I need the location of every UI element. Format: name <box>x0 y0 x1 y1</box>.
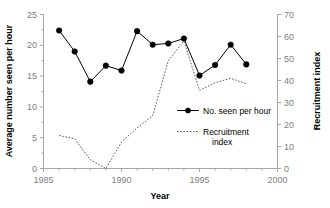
y-left-tick-10: 10 <box>27 102 37 112</box>
recruitment-vs-sightings-chart: 0 5 10 15 20 25 0 10 20 30 40 50 60 70 <box>0 0 330 208</box>
legend-label-series2-line1: Recruitment <box>203 127 249 137</box>
data-point-marker <box>88 79 94 85</box>
x-tick-1985: 1985 <box>33 175 53 185</box>
data-point-marker <box>119 68 125 74</box>
x-tick-1995: 1995 <box>189 175 209 185</box>
data-point-marker <box>244 62 250 68</box>
data-point-marker <box>150 42 156 48</box>
data-point-marker <box>228 42 234 48</box>
y-right-tick-20: 20 <box>284 120 294 130</box>
y-right-tick-10: 10 <box>284 142 294 152</box>
y-axis-right-title: Recruitment index <box>312 52 322 131</box>
y-right-tick-60: 60 <box>284 32 294 42</box>
data-point-marker <box>197 73 203 79</box>
data-point-marker <box>212 62 218 68</box>
y-left-tick-5: 5 <box>32 133 37 143</box>
chart-container: 0 5 10 15 20 25 0 10 20 30 40 50 60 70 <box>0 0 330 208</box>
legend-marker-circle-icon <box>185 108 190 113</box>
legend-label-series2-line2: index <box>212 137 233 147</box>
y-right-tick-40: 40 <box>284 76 294 86</box>
data-point-marker <box>134 28 140 34</box>
y-right-tick-30: 30 <box>284 98 294 108</box>
legend-label-series1: No. seen per hour <box>203 106 271 116</box>
data-point-marker <box>103 63 109 69</box>
data-point-marker <box>166 41 172 47</box>
y-left-tick-25: 25 <box>27 10 37 20</box>
y-left-tick-0: 0 <box>32 164 37 174</box>
x-tick-1990: 1990 <box>111 175 131 185</box>
data-point-marker <box>56 28 62 34</box>
y-right-tick-0: 0 <box>284 164 289 174</box>
y-axis-left-title: Average number seen per hour <box>4 24 14 157</box>
y-left-tick-15: 15 <box>27 71 37 81</box>
y-left-tick-20: 20 <box>27 40 37 50</box>
x-axis-title: Year <box>150 191 170 201</box>
x-tick-2000: 2000 <box>267 175 287 185</box>
data-point-marker <box>181 36 187 42</box>
y-right-tick-70: 70 <box>284 10 294 20</box>
data-point-marker <box>72 49 78 55</box>
y-right-tick-50: 50 <box>284 54 294 64</box>
